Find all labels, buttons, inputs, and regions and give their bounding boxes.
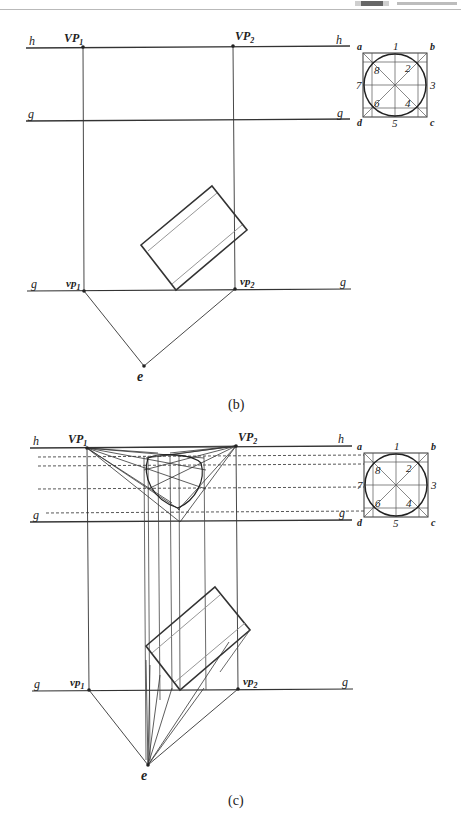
label-g-upper-left-c: g bbox=[33, 508, 39, 522]
plan-inner-line-1-c bbox=[152, 595, 220, 653]
point-e-b bbox=[142, 364, 146, 368]
label-g-upper-right-b: g bbox=[337, 106, 343, 120]
vertical-vp1-b bbox=[83, 47, 84, 291]
label-VP2-b: VP2 bbox=[235, 29, 254, 45]
point-VP2-c bbox=[234, 444, 238, 448]
point-1-c: 1 bbox=[394, 440, 400, 452]
point-5-c: 5 bbox=[393, 517, 399, 529]
perspective-circle-curve-c bbox=[146, 455, 202, 508]
sightline-vp2-e-c bbox=[148, 689, 238, 765]
label-g-upper-right-c: g bbox=[339, 506, 345, 520]
point-6-c: 6 bbox=[375, 497, 381, 509]
corner-d-b: d bbox=[357, 117, 363, 128]
point-VP2-b bbox=[231, 44, 235, 48]
corner-b-c: b bbox=[431, 441, 436, 452]
point-7-c: 7 bbox=[357, 479, 363, 491]
label-vp2-c: vp2 bbox=[243, 675, 257, 690]
sightline-vp1-e-b bbox=[84, 291, 144, 366]
circle-key-b: a b c d 1 2 3 4 5 6 7 8 bbox=[356, 40, 436, 129]
vertical-vp2-b bbox=[233, 46, 235, 289]
label-g-lower-left-b: g bbox=[31, 277, 37, 291]
plan-inner-line-1-b bbox=[148, 193, 217, 251]
caption-b: (b) bbox=[228, 397, 244, 413]
point-2-c: 2 bbox=[406, 462, 412, 474]
vertical-construction-lines-c bbox=[144, 456, 206, 760]
label-VP2-c: VP2 bbox=[238, 430, 257, 446]
figure-b bbox=[26, 44, 351, 368]
horizon-line-b bbox=[26, 46, 350, 48]
point-8-b: 8 bbox=[374, 64, 380, 76]
label-vp1-c: vp1 bbox=[70, 676, 84, 691]
label-g-upper-left-b: g bbox=[28, 107, 34, 121]
point-vp1-b bbox=[82, 289, 86, 293]
label-g-lower-left-c: g bbox=[34, 677, 40, 691]
vertical-vp1-c bbox=[87, 448, 89, 690]
corner-b-b: b bbox=[430, 41, 435, 52]
point-4-c: 4 bbox=[406, 497, 412, 509]
label-e-b: e bbox=[137, 369, 143, 384]
plan-inner-line-2-c bbox=[175, 623, 245, 682]
corner-c-c: c bbox=[431, 517, 436, 528]
point-5-b: 5 bbox=[392, 117, 398, 129]
point-3-c: 3 bbox=[430, 479, 437, 491]
sightline-vp2-e-b bbox=[144, 289, 235, 366]
sightline-vp1-e-c bbox=[89, 690, 148, 765]
sightline-fan-from-e-c bbox=[146, 642, 229, 765]
plan-rectangle-c bbox=[146, 587, 250, 690]
plan-inner-line-2-b bbox=[172, 225, 242, 284]
label-vp2-b: vp2 bbox=[240, 275, 254, 290]
label-e-c: e bbox=[141, 768, 147, 783]
ground-line-upper-b bbox=[26, 119, 350, 121]
point-4-b: 4 bbox=[405, 97, 411, 109]
label-VP1-c: VP1 bbox=[68, 432, 87, 448]
label-h-right-b: h bbox=[336, 33, 342, 47]
label-vp1-b: vp1 bbox=[66, 277, 80, 292]
point-1-b: 1 bbox=[393, 40, 399, 52]
label-h-left-c: h bbox=[33, 434, 39, 448]
corner-a-c: a bbox=[357, 441, 362, 452]
circle-key-c: a b c d 1 2 3 4 5 6 7 8 bbox=[357, 440, 437, 529]
caption-c: (c) bbox=[228, 793, 244, 809]
label-h-left-b: h bbox=[29, 34, 35, 48]
point-6-b: 6 bbox=[374, 97, 380, 109]
point-vp1-c bbox=[87, 688, 91, 692]
perspective-fan-lines-c bbox=[87, 446, 236, 522]
point-e-c bbox=[146, 763, 150, 767]
vertical-vp2-c bbox=[236, 446, 238, 689]
point-vp2-c bbox=[236, 687, 240, 691]
point-vp2-b bbox=[233, 287, 237, 291]
labels-c: h h g g g g VP1 VP2 vp1 vp2 e bbox=[33, 430, 348, 783]
corner-a-b: a bbox=[357, 41, 362, 52]
point-8-c: 8 bbox=[375, 464, 381, 476]
label-g-lower-right-b: g bbox=[340, 275, 346, 289]
label-h-right-c: h bbox=[338, 432, 344, 446]
point-7-b: 7 bbox=[356, 79, 362, 91]
ground-line-upper-c bbox=[30, 520, 352, 522]
point-2-b: 2 bbox=[405, 62, 411, 74]
corner-d-c: d bbox=[357, 517, 363, 528]
point-3-b: 3 bbox=[429, 79, 436, 91]
label-VP1-b: VP1 bbox=[64, 31, 83, 47]
corner-c-b: c bbox=[430, 117, 435, 128]
figure-c bbox=[30, 444, 364, 767]
label-g-lower-right-c: g bbox=[342, 675, 348, 689]
plan-rectangle-b bbox=[141, 186, 247, 290]
